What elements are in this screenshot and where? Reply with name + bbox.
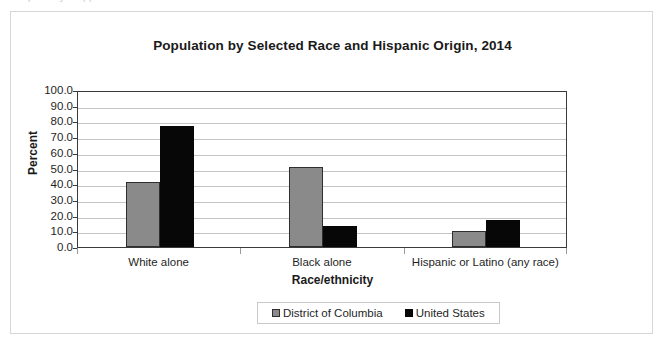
category-separator [566, 248, 567, 254]
legend-label: United States [416, 307, 485, 319]
legend-swatch-icon [405, 309, 413, 317]
bar [126, 182, 160, 247]
y-axis-tick-label: 20.0 [27, 211, 73, 223]
bar [289, 167, 323, 247]
gridline [78, 139, 566, 140]
gridline [78, 155, 566, 156]
bar [160, 126, 194, 248]
y-axis-tick-label: 40.0 [27, 179, 73, 191]
y-axis-tick-label: 30.0 [27, 195, 73, 207]
plot-area [77, 91, 567, 248]
category-separator [240, 248, 241, 254]
y-axis-tick-label: 60.0 [27, 148, 73, 160]
y-axis-tick-label: 80.0 [27, 117, 73, 129]
x-axis-label: Race/ethnicity [11, 273, 654, 287]
y-axis-tick-label: 90.0 [27, 101, 73, 113]
category-label: Hispanic or Latino (any race) [404, 256, 567, 268]
category-axis-separators [77, 248, 567, 255]
category-axis-labels: White aloneBlack aloneHispanic or Latino… [77, 256, 567, 272]
category-separator [404, 248, 405, 254]
bar [323, 226, 357, 247]
bar [486, 220, 520, 247]
legend-item: United States [405, 307, 485, 319]
legend-swatch-icon [272, 309, 280, 317]
gridline [78, 108, 566, 109]
legend-item: District of Columbia [272, 307, 383, 319]
cropped-text: partially cropped text line above chart [28, 0, 205, 2]
category-separator [77, 248, 78, 254]
category-label: Black alone [240, 256, 403, 268]
y-axis-tick-labels: 100.090.080.070.060.050.040.030.020.010.… [25, 91, 73, 248]
y-axis-tick-label: 50.0 [27, 164, 73, 176]
cropped-text-strip: partially cropped text line above chart [0, 0, 663, 9]
y-axis-tick-label: 70.0 [27, 132, 73, 144]
plot-wrapper [77, 91, 567, 248]
y-axis-tick-label: 0.0 [27, 242, 73, 254]
legend-label: District of Columbia [283, 307, 383, 319]
gridline [78, 123, 566, 124]
category-label: White alone [77, 256, 240, 268]
y-axis-tick-label: 10.0 [27, 227, 73, 239]
chart-legend: District of ColumbiaUnited States [257, 302, 500, 324]
chart-title: Population by Selected Race and Hispanic… [11, 38, 654, 53]
chart-frame: Population by Selected Race and Hispanic… [10, 11, 653, 334]
y-axis-tick-label: 100.0 [27, 85, 73, 97]
bar [452, 231, 486, 247]
